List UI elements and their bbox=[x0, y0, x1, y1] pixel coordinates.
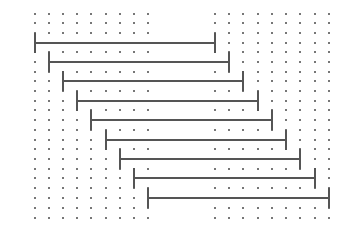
grid-dot bbox=[90, 13, 91, 15]
end-tick-5 bbox=[271, 110, 273, 130]
grid-dot bbox=[299, 217, 300, 219]
grid-dot bbox=[314, 61, 315, 63]
grid-dot bbox=[90, 158, 91, 160]
grid-dot bbox=[214, 109, 215, 111]
grid-dot bbox=[299, 51, 300, 53]
grid-dot bbox=[90, 177, 91, 179]
grid-dot bbox=[62, 13, 63, 15]
start-tick-4 bbox=[76, 91, 78, 111]
grid-dot bbox=[34, 13, 35, 15]
grid-dot bbox=[214, 217, 215, 219]
grid-dot bbox=[62, 207, 63, 209]
grid-dot bbox=[48, 100, 49, 102]
grid-dot bbox=[214, 90, 215, 92]
grid-dot bbox=[285, 80, 286, 82]
grid-dot bbox=[90, 217, 91, 219]
grid-dot bbox=[147, 22, 148, 24]
grid-dot bbox=[105, 158, 106, 160]
grid-dot bbox=[76, 139, 77, 141]
interval-bar-4 bbox=[77, 100, 258, 102]
grid-dot bbox=[214, 148, 215, 150]
grid-dot bbox=[90, 168, 91, 170]
grid-dot bbox=[62, 32, 63, 34]
grid-dot bbox=[299, 129, 300, 131]
grid-dot bbox=[133, 71, 134, 73]
grid-dot bbox=[285, 119, 286, 121]
grid-dot bbox=[76, 217, 77, 219]
grid-dot bbox=[285, 42, 286, 44]
grid-dot bbox=[314, 119, 315, 121]
grid-dot bbox=[228, 22, 229, 24]
grid-dot bbox=[285, 51, 286, 53]
grid-dot bbox=[90, 22, 91, 24]
interval-bar-3 bbox=[63, 80, 243, 82]
grid-dot bbox=[242, 22, 243, 24]
grid-dot bbox=[147, 90, 148, 92]
grid-dot bbox=[299, 100, 300, 102]
interval-bar-5 bbox=[91, 119, 272, 121]
grid-dot bbox=[299, 139, 300, 141]
grid-dot bbox=[133, 109, 134, 111]
grid-dot bbox=[105, 51, 106, 53]
grid-dot bbox=[119, 22, 120, 24]
grid-dot bbox=[90, 139, 91, 141]
grid-dot bbox=[34, 168, 35, 170]
grid-dot bbox=[90, 207, 91, 209]
grid-dot bbox=[299, 119, 300, 121]
grid-dot bbox=[314, 139, 315, 141]
grid-dot bbox=[271, 32, 272, 34]
grid-dot bbox=[242, 42, 243, 44]
grid-dot bbox=[105, 217, 106, 219]
grid-dot bbox=[242, 109, 243, 111]
grid-dot bbox=[119, 32, 120, 34]
grid-dot bbox=[48, 217, 49, 219]
grid-dot bbox=[34, 80, 35, 82]
grid-dot bbox=[34, 139, 35, 141]
grid-dot bbox=[147, 168, 148, 170]
grid-dot bbox=[314, 51, 315, 53]
grid-dot bbox=[147, 71, 148, 73]
grid-dot bbox=[62, 148, 63, 150]
end-tick-2 bbox=[228, 52, 230, 72]
grid-dot bbox=[48, 129, 49, 131]
grid-dot bbox=[257, 207, 258, 209]
grid-dot bbox=[48, 177, 49, 179]
grid-dot bbox=[62, 109, 63, 111]
grid-dot bbox=[328, 129, 329, 131]
grid-dot bbox=[133, 217, 134, 219]
grid-dot bbox=[314, 32, 315, 34]
grid-dot bbox=[328, 217, 329, 219]
grid-dot bbox=[119, 197, 120, 199]
grid-dot bbox=[285, 100, 286, 102]
grid-dot bbox=[285, 22, 286, 24]
grid-dot bbox=[76, 119, 77, 121]
grid-dot bbox=[119, 90, 120, 92]
grid-dot bbox=[48, 187, 49, 189]
grid-dot bbox=[285, 168, 286, 170]
grid-dot bbox=[34, 100, 35, 102]
grid-dot bbox=[48, 90, 49, 92]
grid-dot bbox=[133, 22, 134, 24]
grid-dot bbox=[214, 13, 215, 15]
grid-dot bbox=[242, 207, 243, 209]
start-tick-9 bbox=[147, 188, 149, 208]
grid-dot bbox=[299, 22, 300, 24]
interval-bar-2 bbox=[49, 61, 229, 63]
grid-dot bbox=[214, 187, 215, 189]
grid-dot bbox=[105, 207, 106, 209]
grid-dot bbox=[257, 80, 258, 82]
grid-dot bbox=[314, 71, 315, 73]
grid-dot bbox=[299, 109, 300, 111]
grid-dot bbox=[271, 90, 272, 92]
grid-dot bbox=[214, 71, 215, 73]
grid-dot bbox=[62, 119, 63, 121]
grid-dot bbox=[76, 13, 77, 15]
grid-dot bbox=[271, 61, 272, 63]
grid-dot bbox=[119, 187, 120, 189]
grid-dot bbox=[105, 187, 106, 189]
grid-dot bbox=[328, 71, 329, 73]
grid-dot bbox=[285, 217, 286, 219]
grid-dot bbox=[34, 197, 35, 199]
grid-dot bbox=[242, 148, 243, 150]
grid-dot bbox=[328, 80, 329, 82]
